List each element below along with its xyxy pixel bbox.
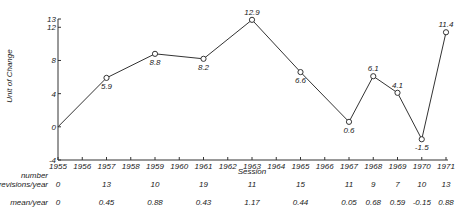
table-cell: 0.59 xyxy=(390,198,406,207)
data-point xyxy=(298,69,303,74)
table-cell: 19 xyxy=(199,180,208,189)
data-label: 5.9 xyxy=(101,82,113,91)
axes xyxy=(58,19,448,160)
y-ticks: 1312840-4 xyxy=(47,15,61,165)
series-line xyxy=(58,20,446,139)
table-cell: 0.88 xyxy=(147,198,163,207)
table-row-label: mean/year xyxy=(10,198,48,207)
data-label: 8.2 xyxy=(198,63,210,72)
data-point xyxy=(201,56,206,61)
x-tick-label: 1970 xyxy=(413,162,431,171)
table-cell: 13 xyxy=(442,180,451,189)
table-cell: 0.45 xyxy=(99,198,115,207)
x-tick-label: 1969 xyxy=(389,162,407,171)
table-cell: 1.17 xyxy=(244,198,260,207)
data-point xyxy=(371,74,376,79)
data-label: 8.8 xyxy=(149,58,161,67)
series xyxy=(58,20,446,139)
data-labels: 5.98.88.212.96.60.66.14.1-1.511.4 xyxy=(101,8,454,152)
y-tick-label: 12 xyxy=(47,23,56,32)
x-tick-label: 1971 xyxy=(437,162,455,171)
x-tick-label: 1961 xyxy=(195,162,213,171)
x-tick-label: 1964 xyxy=(267,162,285,171)
data-label: 0.6 xyxy=(343,126,355,135)
table-cell: 0.68 xyxy=(365,198,381,207)
line-chart: 1312840-4 195519561957195819591960196119… xyxy=(0,0,461,212)
table-cell: 0.43 xyxy=(196,198,212,207)
table-cell: 11 xyxy=(345,180,353,189)
table-cell: 13 xyxy=(102,180,111,189)
y-tick-label: 0 xyxy=(52,123,57,132)
table-cell: 7 xyxy=(395,180,400,189)
x-tick-label: 1967 xyxy=(340,162,358,171)
data-label: 4.1 xyxy=(392,81,403,90)
table-cell: 0.44 xyxy=(293,198,309,207)
x-axis-label: Session xyxy=(238,167,267,176)
table-row-label: number xyxy=(21,171,48,180)
x-tick-label: 1968 xyxy=(364,162,382,171)
x-tick-label: 1959 xyxy=(146,162,164,171)
data-label: 6.1 xyxy=(368,64,379,73)
table-cell: -0.15 xyxy=(413,198,432,207)
x-tick-label: 1956 xyxy=(73,162,91,171)
data-table: numberrevisions/year0131019111511971013m… xyxy=(0,171,454,207)
y-tick-label: 8 xyxy=(52,56,57,65)
table-row-label: revisions/year xyxy=(0,180,48,189)
table-cell: 0 xyxy=(56,198,61,207)
data-label: 11.4 xyxy=(439,20,455,29)
y-axis-label: Unit of Change xyxy=(5,49,14,103)
x-tick-label: 1955 xyxy=(49,162,67,171)
data-label: 6.6 xyxy=(295,76,307,85)
table-cell: 0.88 xyxy=(438,198,454,207)
data-label: 12.9 xyxy=(244,8,260,17)
data-point xyxy=(152,51,157,56)
table-cell: 0 xyxy=(56,180,61,189)
table-cell: 11 xyxy=(248,180,256,189)
x-tick-label: 1965 xyxy=(292,162,310,171)
data-point xyxy=(419,137,424,142)
data-point xyxy=(443,30,448,35)
x-tick-label: 1962 xyxy=(219,162,237,171)
data-label: -1.5 xyxy=(415,143,429,152)
data-point xyxy=(395,90,400,95)
table-cell: 0.05 xyxy=(341,198,357,207)
y-tick-label: 4 xyxy=(52,90,57,99)
data-point xyxy=(249,17,254,22)
x-tick-label: 1960 xyxy=(170,162,188,171)
x-tick-label: 1957 xyxy=(98,162,116,171)
table-cell: 10 xyxy=(417,180,426,189)
table-cell: 15 xyxy=(296,180,305,189)
data-point xyxy=(104,75,109,80)
x-tick-label: 1958 xyxy=(122,162,140,171)
points xyxy=(104,17,449,142)
table-cell: 9 xyxy=(371,180,376,189)
data-point xyxy=(346,119,351,124)
table-cell: 10 xyxy=(151,180,160,189)
x-tick-label: 1966 xyxy=(316,162,334,171)
